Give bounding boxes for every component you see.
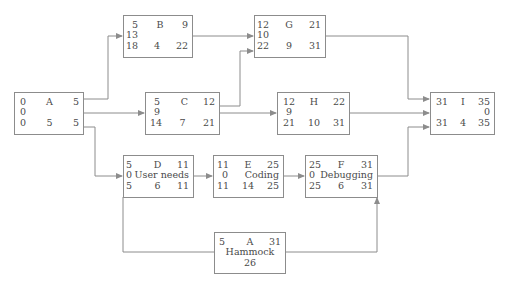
early-start: 31 [436,97,448,108]
slack: 0 [126,170,132,181]
early-finish: 22 [333,97,345,108]
late-start: 22 [257,41,269,52]
late-finish: 5 [73,118,79,129]
duration: 6 [338,181,344,192]
slack: 13 [126,30,138,41]
activity-id: A [46,97,53,108]
late-finish: 31 [361,181,373,192]
activity-id: H [310,97,318,108]
late-start: 5 [126,181,132,192]
slack: 9 [286,107,292,118]
node-i: 31I35 0 31435 [430,92,495,135]
slack: 0 [309,170,315,181]
node-c: 5C12 9 14721 [145,92,220,135]
hammock-start: 5 [219,237,225,248]
duration: 7 [179,118,185,129]
activity-label: User needs [135,170,189,181]
late-finish: 35 [478,118,490,129]
late-finish: 31 [333,118,345,129]
late-start: 0 [20,118,26,129]
activity-id: G [285,20,293,31]
late-start: 11 [217,181,229,192]
activity-id: I [461,97,465,108]
activity-label: Coding [245,170,279,181]
duration: 10 [308,118,320,129]
node-e: 11E25 0Coding 111425 [213,155,284,198]
late-start: 21 [283,118,295,129]
late-start: 31 [436,118,448,129]
late-start: 14 [150,118,162,129]
duration: 4 [154,41,160,52]
early-finish: 5 [73,97,79,108]
node-b: 5B9 13 18422 [123,15,193,58]
slack: 0 [484,107,490,118]
early-finish: 21 [309,20,321,31]
late-finish: 21 [203,118,215,129]
activity-label: Debugging [320,170,373,181]
late-finish: 11 [177,181,189,192]
early-finish: 9 [182,20,188,31]
duration: 4 [460,118,466,129]
slack: 0 [222,170,228,181]
late-start: 25 [309,181,321,192]
slack: 0 [20,107,26,118]
duration: 5 [46,118,52,129]
hammock-node: 5A31 Hammock 26 [214,232,286,274]
late-finish: 22 [176,41,188,52]
slack: 9 [154,107,160,118]
hammock-duration: 26 [244,258,256,269]
duration: 6 [154,181,160,192]
node-f: 25F31 0Debugging 25631 [305,155,378,198]
activity-id: B [157,20,164,31]
node-g: 12G21 10 22931 [254,15,326,58]
node-d: 5D11 0User needs 5611 [123,155,194,198]
early-finish: 12 [203,97,215,108]
slack: 10 [257,30,269,41]
hammock-label: Hammock [226,247,275,258]
node-h: 12H22 9 211031 [277,92,350,135]
late-start: 18 [126,41,138,52]
duration: 9 [286,41,292,52]
activity-id: C [181,97,188,108]
node-a: 0A5 0 055 [14,92,84,135]
duration: 14 [242,181,254,192]
late-finish: 31 [309,41,321,52]
late-finish: 25 [267,181,279,192]
